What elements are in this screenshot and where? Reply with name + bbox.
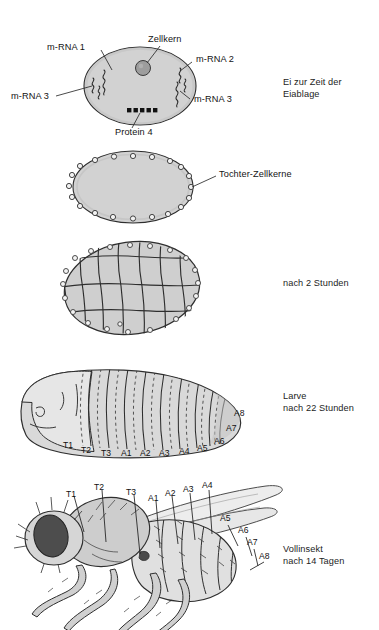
larva-seg-T3: T3 (101, 449, 111, 458)
larva-seg-A8: A8 (234, 409, 245, 418)
caption-larva-line1: Larve (283, 390, 306, 402)
adult-seg-T1: T1 (66, 490, 76, 499)
label-zellkern: Zellkern (148, 34, 181, 44)
larva-seg-A1: A1 (121, 449, 132, 458)
adult-seg-A4: A4 (202, 481, 213, 490)
larva-seg-T1: T1 (63, 441, 73, 450)
adult-seg-A2: A2 (165, 489, 176, 498)
adult-seg-A8: A8 (259, 552, 270, 561)
egg-outline (73, 151, 193, 223)
adult-seg-A5: A5 (220, 514, 231, 523)
adult-seg-T3: T3 (126, 488, 136, 497)
label-m-rna-2: m-RNA 2 (196, 54, 234, 64)
leader-tochter-zellkerne (192, 176, 216, 187)
stage-syncytial-blastoderm-graphic (0, 148, 379, 243)
label-m-rna-3-right: m-RNA 3 (194, 94, 232, 104)
caption-adult-line1: Vollinsekt (283, 543, 323, 555)
larva-seg-A6: A6 (214, 437, 225, 446)
haltere (139, 551, 149, 560)
label-protein-4: Protein 4 (115, 127, 153, 137)
larva-seg-T2: T2 (81, 446, 91, 455)
adult-seg-A3: A3 (183, 485, 194, 494)
zellkern-icon (136, 61, 151, 76)
caption-egg-at-laying-line2: Eiablage (283, 88, 320, 100)
larva-seg-A2: A2 (140, 449, 151, 458)
larva-seg-A4: A4 (179, 447, 190, 456)
stage-egg-at-laying-graphic (0, 0, 379, 150)
larva-seg-A7: A7 (226, 424, 237, 433)
label-m-rna-1: m-RNA 1 (47, 42, 85, 52)
label-tochter-zellkerne: Tochter-Zellkerne (219, 169, 292, 179)
egg-outline (58, 236, 205, 343)
label-m-rna-3-left: m-RNA 3 (11, 91, 49, 101)
adult-seg-A7: A7 (247, 538, 258, 547)
adult-seg-T2: T2 (94, 483, 104, 492)
caption-egg-at-laying-line1: Ei zur Zeit der (283, 76, 342, 88)
caption-adult-line2: nach 14 Tagen (283, 555, 344, 567)
larva-seg-A5: A5 (197, 444, 208, 453)
caption-cellular-blastoderm: nach 2 Stunden (283, 277, 349, 289)
adult-seg-A6: A6 (238, 526, 249, 535)
caption-larva-line2: nach 22 Stunden (283, 402, 354, 414)
larva-seg-A3: A3 (159, 449, 170, 458)
adult-seg-A1: A1 (148, 494, 159, 503)
stage-cellular-blastoderm-graphic (0, 236, 379, 356)
